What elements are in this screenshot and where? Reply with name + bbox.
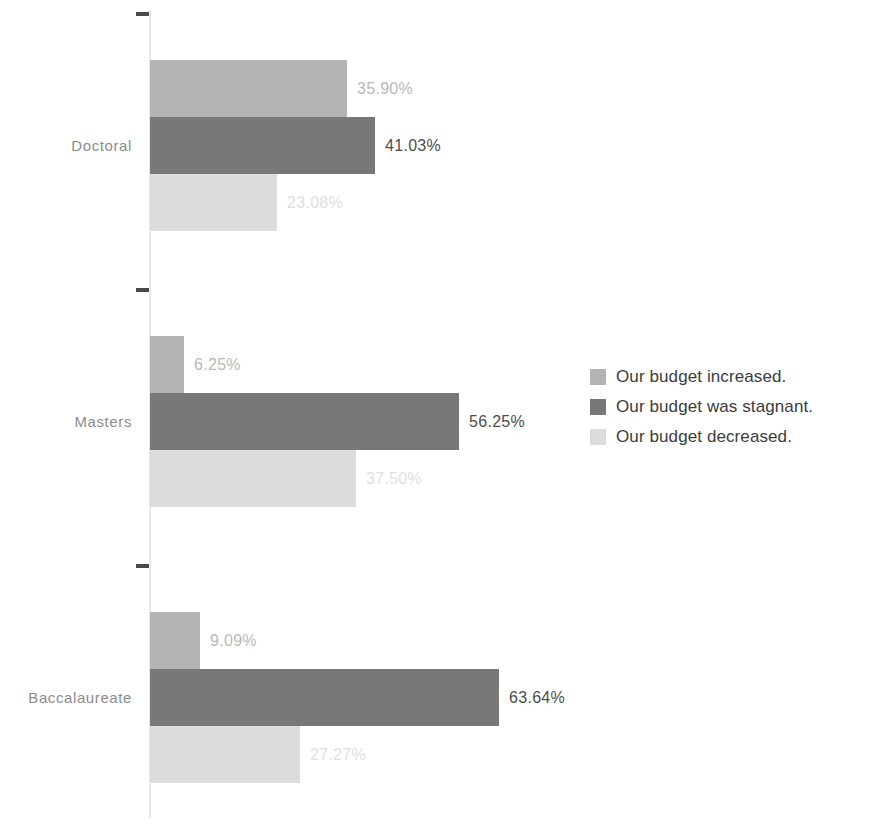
bar-value-label: 37.50% xyxy=(366,471,422,487)
bar[interactable] xyxy=(150,726,300,783)
legend-swatch-icon xyxy=(590,369,606,385)
bar[interactable] xyxy=(150,60,347,117)
grouped-bar-chart: DoctoralMastersBaccalaureate 35.90%41.03… xyxy=(0,0,882,828)
bar-value-label: 9.09% xyxy=(210,633,257,649)
legend-label: Our budget was stagnant. xyxy=(616,397,813,417)
bar[interactable] xyxy=(150,336,184,393)
axis-tick xyxy=(136,288,149,292)
bar-value-label: 63.64% xyxy=(509,690,565,706)
chart-legend: Our budget increased.Our budget was stag… xyxy=(590,362,813,452)
legend-label: Our budget decreased. xyxy=(616,427,792,447)
bar[interactable] xyxy=(150,117,375,174)
legend-label: Our budget increased. xyxy=(616,367,786,387)
legend-item[interactable]: Our budget increased. xyxy=(590,362,813,392)
category-label-masters: Masters xyxy=(74,414,132,429)
category-label-baccalaureate: Baccalaureate xyxy=(28,690,132,705)
bar-value-label: 23.08% xyxy=(287,195,343,211)
legend-swatch-icon xyxy=(590,399,606,415)
bar-value-label: 56.25% xyxy=(469,414,525,430)
bar-value-label: 27.27% xyxy=(310,747,366,763)
axis-tick xyxy=(136,564,149,568)
bar-value-label: 6.25% xyxy=(194,357,241,373)
bar-value-label: 35.90% xyxy=(357,81,413,97)
bar-value-label: 41.03% xyxy=(385,138,441,154)
bar[interactable] xyxy=(150,669,499,726)
legend-swatch-icon xyxy=(590,429,606,445)
bar[interactable] xyxy=(150,450,356,507)
bar[interactable] xyxy=(150,612,200,669)
category-label-doctoral: Doctoral xyxy=(71,138,132,153)
legend-item[interactable]: Our budget decreased. xyxy=(590,422,813,452)
bar[interactable] xyxy=(150,393,459,450)
legend-item[interactable]: Our budget was stagnant. xyxy=(590,392,813,422)
axis-tick xyxy=(136,12,149,16)
bar[interactable] xyxy=(150,174,277,231)
